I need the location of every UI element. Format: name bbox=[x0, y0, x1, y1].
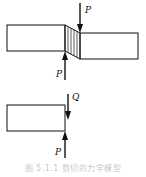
down-arrow-icon bbox=[77, 3, 83, 33]
figure-caption: 图 5.1.1 剪切的力学模型 bbox=[0, 162, 146, 173]
down-arrow-icon bbox=[65, 94, 71, 120]
up-arrow-icon bbox=[62, 51, 68, 80]
right-block bbox=[80, 33, 138, 59]
up-arrow-icon bbox=[62, 131, 68, 158]
left-block bbox=[7, 25, 65, 51]
top-sheared-bar: P P bbox=[7, 3, 138, 80]
shear-zone bbox=[65, 25, 80, 59]
free-body-block bbox=[7, 105, 65, 131]
force-label-top: P bbox=[84, 5, 92, 15]
shear-model-diagram: P P Q P bbox=[0, 0, 146, 177]
force-label-bottom: P bbox=[55, 69, 63, 79]
bottom-free-body: Q P bbox=[7, 92, 80, 158]
force-label-q: Q bbox=[72, 92, 80, 102]
force-label-p: P bbox=[54, 147, 62, 157]
